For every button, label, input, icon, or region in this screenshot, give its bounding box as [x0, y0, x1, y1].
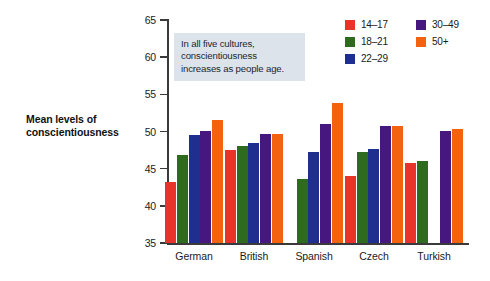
- x-axis-label-turkish: Turkish: [394, 250, 474, 262]
- y-tick-label-60: 60: [145, 51, 156, 63]
- bar-czech-50+: [392, 126, 403, 243]
- bar-spanish-22-29: [308, 152, 319, 243]
- bar-german-18-21: [177, 155, 188, 243]
- y-tick-label-35: 35: [145, 237, 156, 249]
- bar-spanish-30-49: [320, 124, 331, 243]
- bar-british-22-29: [248, 143, 259, 243]
- bar-czech-18-21: [357, 152, 368, 243]
- annotation-line-3: increases as people age.: [181, 63, 299, 75]
- legend-swatch-blue: [345, 54, 355, 64]
- annotation-line-1: In all five cultures,: [181, 38, 299, 50]
- y-tick-label-45: 45: [145, 163, 156, 175]
- bar-german-22-29: [189, 135, 200, 243]
- bar-german-50+: [212, 120, 223, 243]
- legend-column-a: 14–1718–2122–29: [345, 17, 388, 68]
- y-tick-label-55: 55: [145, 88, 156, 100]
- bar-british-50+: [272, 134, 283, 243]
- legend-label-50+: 50+: [432, 36, 448, 47]
- x-axis-line: [167, 243, 469, 245]
- bar-czech-22-29: [368, 149, 379, 243]
- bar-czech-14-17: [345, 176, 356, 243]
- y-axis-title: Mean levels of conscientiousness: [26, 113, 150, 139]
- y-tick-label-65: 65: [145, 14, 156, 26]
- y-axis-title-line-2: conscientiousness: [26, 126, 150, 139]
- legend-item-22-29[interactable]: 22–29: [345, 51, 388, 66]
- legend-column-b: 30–4950+: [416, 17, 459, 51]
- bar-chart: Mean levels of conscientiousness 6560555…: [0, 0, 490, 281]
- y-tick-label-50: 50: [145, 126, 156, 138]
- bar-german-14-17: [165, 182, 176, 243]
- legend-label-30-49: 30–49: [432, 19, 459, 30]
- legend-label-14-17: 14–17: [361, 19, 388, 30]
- legend-swatch-green: [345, 37, 355, 47]
- legend-swatch-red: [345, 20, 355, 30]
- bar-british-18-21: [237, 146, 248, 243]
- y-axis-title-line-1: Mean levels of: [26, 113, 150, 126]
- legend-swatch-purple: [416, 20, 426, 30]
- y-tick-label-40: 40: [145, 200, 156, 212]
- legend-item-14-17[interactable]: 14–17: [345, 17, 388, 32]
- bar-turkish-18-21: [417, 161, 428, 244]
- legend-swatch-orange: [416, 37, 426, 47]
- bar-spanish-50+: [332, 103, 343, 243]
- bar-group-turkish: [405, 20, 462, 243]
- annotation-callout: In all five cultures,conscientiousnessin…: [174, 33, 305, 81]
- legend-label-22-29: 22–29: [361, 53, 388, 64]
- bar-british-14-17: [225, 150, 236, 243]
- legend-item-18-21[interactable]: 18–21: [345, 34, 388, 49]
- bar-british-30-49: [260, 134, 271, 243]
- bar-turkish-14-17: [405, 163, 416, 243]
- bar-turkish-30-49: [440, 131, 451, 243]
- bar-spanish-18-21: [297, 179, 308, 243]
- legend-item-30-49[interactable]: 30–49: [416, 17, 459, 32]
- legend-label-18-21: 18–21: [361, 36, 388, 47]
- bar-german-30-49: [200, 131, 211, 243]
- legend-item-50+[interactable]: 50+: [416, 34, 459, 49]
- bar-turkish-50+: [452, 129, 463, 243]
- annotation-line-2: conscientiousness: [181, 50, 299, 62]
- bar-czech-30-49: [380, 126, 391, 243]
